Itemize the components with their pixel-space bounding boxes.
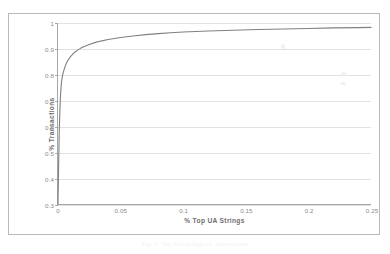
y-tick-label: 0.4: [45, 176, 54, 183]
y-tick-mark: [55, 205, 58, 206]
y-tick-label: 0.8: [45, 72, 54, 79]
scan-speck: [341, 72, 346, 76]
x-tick-label: 0.05: [115, 207, 127, 214]
x-tick-label: 0: [56, 207, 60, 214]
y-tick-label: 0.6: [45, 124, 54, 131]
figure-root: % Transactions 0.30.40.50.60.70.80.91 00…: [0, 0, 390, 254]
plot-area: 0.30.40.50.60.70.80.91 00.050.10.150.20.…: [57, 23, 371, 205]
x-tick-label: 0.15: [240, 207, 252, 214]
figure-caption: Fig. 1. Top UA strings vs. transactions: [0, 240, 390, 254]
x-tick-label: 0.1: [179, 207, 188, 214]
y-tick-label: 0.5: [45, 150, 54, 157]
y-tick-label: 0.3: [45, 202, 54, 209]
chart-frame: % Transactions 0.30.40.50.60.70.80.91 00…: [8, 13, 380, 235]
x-tick-label: 0.25: [366, 207, 378, 214]
scan-speck: [281, 44, 285, 49]
x-axis-title: % Top UA Strings: [58, 217, 371, 224]
x-tick-label: 0.2: [305, 207, 314, 214]
y-tick-label: 0.9: [45, 46, 54, 53]
scan-speck: [340, 82, 346, 85]
gridline-horizontal: [58, 205, 371, 206]
y-tick-label: 0.7: [45, 98, 54, 105]
series-path-cumulative-transaction-coverage: [58, 27, 371, 204]
series-line-chart: [58, 23, 371, 204]
y-tick-label: 1: [50, 20, 54, 27]
